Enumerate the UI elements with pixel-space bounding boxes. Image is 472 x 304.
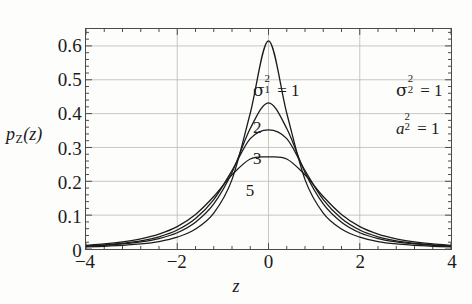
x-tick-label: −4: [60, 252, 110, 271]
y-tick-label: 0.2: [22, 172, 82, 191]
y-axis-title-argument: (z): [23, 124, 42, 144]
gridlines: [86, 29, 451, 249]
annotation-sigma1: σ21= 1: [253, 79, 299, 99]
figure-chart-pz-of-z: 00.10.20.30.40.50.6 pZ(z) σ21= 1σ22= 1a2…: [0, 0, 472, 304]
y-tick-label: 0.5: [22, 70, 82, 89]
x-tick-label: −2: [152, 252, 202, 271]
annotation-equals-value: = 1: [415, 119, 439, 138]
annotation-subscript: 1: [265, 84, 270, 95]
y-tick-label: 0.4: [22, 104, 82, 123]
annotation-base: a: [396, 119, 405, 138]
curve-label-5: 5: [246, 182, 255, 199]
annotation-sup-sub: 22: [408, 79, 419, 96]
x-tick-label: 2: [335, 252, 385, 271]
x-tick-label: 0: [244, 252, 294, 271]
y-tick-label: 0.6: [22, 36, 82, 55]
plot-area: σ21= 1σ22= 1a22= 1235: [85, 28, 452, 250]
plot-svg: [86, 29, 451, 249]
annotation-a2: a22= 1: [396, 117, 439, 137]
curve-label-3: 3: [253, 150, 262, 167]
y-tick-label: 0.1: [22, 206, 82, 225]
annotation-sup-sub: 22: [405, 117, 416, 134]
annotation-equals-value: = 1: [418, 81, 442, 100]
annotation-equals-value: = 1: [275, 81, 299, 100]
annotation-base: σ: [396, 80, 408, 100]
annotation-subscript: 2: [405, 121, 410, 132]
y-axis-title-base: p: [6, 124, 15, 144]
curve-label-2: 2: [253, 119, 262, 136]
annotation-sigma2: σ22= 1: [396, 79, 442, 99]
annotation-base: σ: [253, 80, 265, 100]
x-tick-label: 4: [427, 252, 472, 271]
annotation-sup-sub: 21: [265, 79, 276, 96]
annotation-subscript: 2: [408, 84, 413, 95]
x-axis-title: z: [0, 276, 472, 297]
y-axis-title: pZ(z): [6, 124, 42, 147]
